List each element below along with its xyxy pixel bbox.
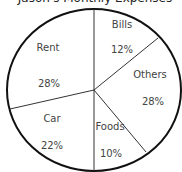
slice-label-rent: Rent <box>37 42 60 53</box>
slice-label-bills: Bills <box>112 19 132 30</box>
slice-pct-car: 22% <box>41 140 63 151</box>
slice-label-foods: Foods <box>95 121 124 132</box>
slice-pct-rent: 28% <box>38 78 60 89</box>
slice-pct-bills: 12% <box>111 44 133 55</box>
pie-chart <box>0 0 182 172</box>
slice-pct-others: 28% <box>142 96 164 107</box>
slice-pct-foods: 10% <box>100 148 122 159</box>
slice-label-car: Car <box>43 113 60 124</box>
slice-label-others: Others <box>133 69 167 80</box>
